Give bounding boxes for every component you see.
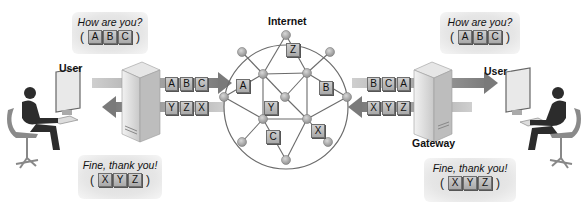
left-outgoing-packets: A B C [165, 77, 208, 91]
right-reply-message: Fine, thank you! [424, 162, 516, 174]
transit-packet: A [236, 79, 250, 93]
right-user-icon [506, 68, 581, 168]
packet: Y [382, 101, 395, 115]
transit-packet: Z [286, 43, 300, 57]
packet: Z [180, 101, 193, 115]
packet: B [367, 77, 380, 91]
right-gateway-server-icon [414, 62, 452, 142]
right-received-bubble: How are you? ( A B C ) [440, 12, 520, 54]
packet: Y [165, 101, 178, 115]
transit-packet: X [311, 124, 325, 138]
packet: Z [128, 173, 142, 187]
left-incoming-bubble: Fine, thank you! ( X Y Z ) [78, 155, 162, 199]
packet: Y [113, 173, 127, 187]
right-user-label: User [484, 65, 507, 77]
left-incoming-message: Fine, thank you! [78, 159, 162, 171]
packet: X [448, 176, 462, 190]
packet: C [118, 30, 132, 44]
right-outgoing-packets: X Y Z [367, 101, 410, 115]
packet: C [382, 77, 395, 91]
packet: A [397, 77, 410, 91]
packet: A [165, 77, 178, 91]
right-gateway-label: Gateway [412, 137, 455, 149]
left-gateway-server-icon [122, 62, 160, 142]
packet: Y [463, 176, 477, 190]
transit-packet: Y [264, 101, 278, 115]
packet: B [473, 30, 487, 44]
left-user-label: User [59, 62, 82, 74]
packet: B [180, 77, 193, 91]
packet: C [195, 77, 208, 91]
right-reply-bubble: Fine, thank you! ( X Y Z ) [424, 158, 516, 202]
packet: X [367, 101, 380, 115]
packet: Z [478, 176, 492, 190]
left-user-icon [7, 68, 80, 168]
transit-packet: C [266, 130, 280, 144]
packet: X [195, 101, 208, 115]
left-incoming-packets: Y Z X [165, 101, 208, 115]
packet: X [98, 173, 112, 187]
right-incoming-packets: B C A [367, 77, 410, 91]
internet-label: Internet [268, 15, 307, 27]
transit-packet: B [319, 81, 333, 95]
left-outgoing-arrow [92, 72, 232, 94]
packet: A [458, 30, 472, 44]
packet: C [488, 30, 502, 44]
packet: A [88, 30, 102, 44]
packet: B [103, 30, 117, 44]
left-outgoing-bubble: How are you? ( A B C ) [72, 12, 148, 54]
left-outgoing-message: How are you? [72, 16, 148, 28]
right-received-message: How are you? [440, 16, 520, 28]
packet: Z [397, 101, 410, 115]
